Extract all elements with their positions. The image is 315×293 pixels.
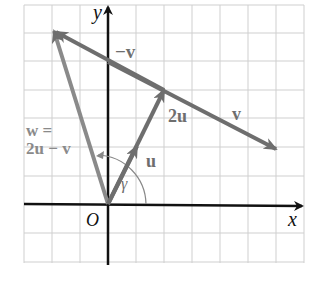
label-v: v: [232, 104, 241, 124]
label-w-line1: w =: [26, 121, 52, 140]
y-axis-label: y: [91, 1, 102, 24]
angle-arc-arrow: [96, 151, 104, 159]
x-axis: [24, 204, 302, 206]
origin-label: O: [86, 210, 99, 230]
vector-diagram: y x O −v 2u v u γ w = 2u − v: [0, 0, 315, 293]
grid: [24, 5, 304, 263]
x-axis-label: x: [287, 208, 297, 230]
label-gamma: γ: [121, 175, 128, 193]
label-w-line2: 2u − v: [26, 139, 71, 158]
label-neg-v: −v: [115, 41, 136, 62]
label-u: u: [146, 151, 156, 171]
label-2u: 2u: [168, 106, 187, 126]
